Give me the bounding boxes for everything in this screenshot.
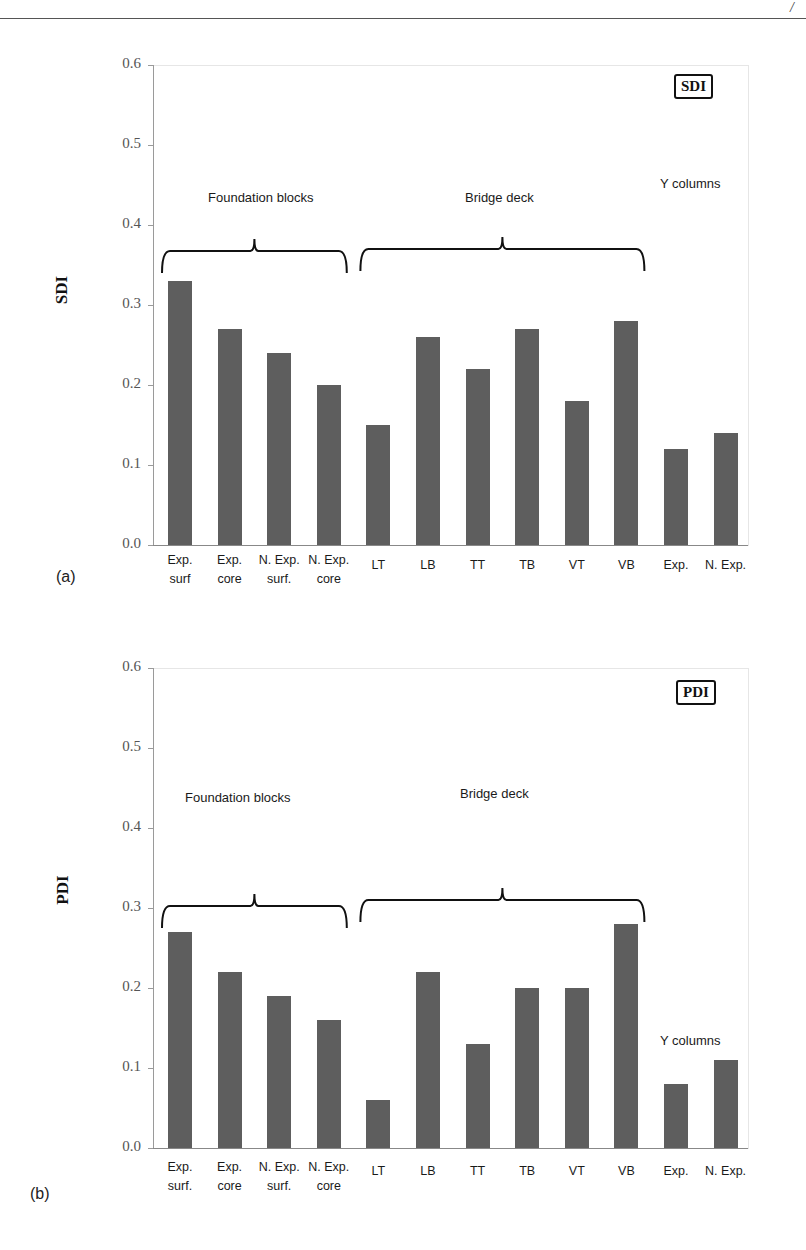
bar	[714, 433, 738, 545]
bar	[466, 369, 490, 545]
bar	[664, 1084, 688, 1148]
y-tick-label: 0.4	[101, 818, 141, 835]
group-label: Foundation blocks	[185, 790, 291, 805]
bar	[168, 932, 192, 1148]
group-label: Foundation blocks	[208, 190, 314, 205]
group-label: Bridge deck	[465, 190, 534, 205]
y-axis	[153, 65, 154, 545]
x-tick-label-line: N. Exp.	[696, 1162, 756, 1181]
x-tick-label: N. Exp.	[696, 556, 756, 575]
y-tick	[148, 385, 153, 386]
y-tick	[148, 545, 153, 546]
bar	[168, 281, 192, 545]
bar	[317, 385, 341, 545]
y-tick	[148, 225, 153, 226]
page-top-rule	[0, 18, 806, 19]
x-tick-label: N. Exp.	[696, 1162, 756, 1181]
y-tick-label: 0.3	[101, 295, 141, 312]
x-tick-label-line: N. Exp.	[696, 556, 756, 575]
y-tick	[148, 1148, 153, 1149]
bar	[416, 337, 440, 545]
y-tick	[148, 145, 153, 146]
y-tick	[148, 465, 153, 466]
bar	[218, 972, 242, 1148]
y-tick	[148, 748, 153, 749]
bar	[267, 996, 291, 1148]
y-tick	[148, 988, 153, 989]
legend-box: SDI	[674, 74, 713, 99]
bar	[416, 972, 440, 1148]
y-tick-label: 0.1	[101, 1058, 141, 1075]
bar	[366, 1100, 390, 1148]
x-axis	[153, 545, 748, 546]
bar	[614, 321, 638, 545]
y-tick	[148, 65, 153, 66]
group-label: Bridge deck	[460, 786, 529, 801]
y-tick-label: 0.5	[101, 738, 141, 755]
y-tick-label: 0.2	[101, 375, 141, 392]
panel-tag: (a)	[56, 568, 76, 586]
bar	[565, 401, 589, 545]
group-brace-icon	[0, 880, 806, 940]
bar	[664, 449, 688, 545]
x-axis	[153, 1148, 748, 1149]
bar	[218, 329, 242, 545]
bar	[366, 425, 390, 545]
bar	[515, 329, 539, 545]
y-tick-label: 0.5	[101, 135, 141, 152]
y-tick	[148, 668, 153, 669]
legend-box: PDI	[676, 680, 716, 705]
y-tick-label: 0.6	[101, 658, 141, 675]
y-tick	[148, 828, 153, 829]
bar	[714, 1060, 738, 1148]
bar	[267, 353, 291, 545]
y-tick-label: 0.0	[101, 535, 141, 552]
group-label: Y columns	[660, 1033, 720, 1048]
y-tick-label: 0.1	[101, 455, 141, 472]
bar	[515, 988, 539, 1148]
y-tick-label: 0.0	[101, 1138, 141, 1155]
bar	[317, 1020, 341, 1148]
bar	[614, 924, 638, 1148]
page-mark: /	[790, 0, 794, 16]
group-brace-icon	[0, 229, 806, 289]
y-tick	[148, 1068, 153, 1069]
panel-tag: (b)	[30, 1185, 50, 1203]
y-tick-label: 0.6	[101, 55, 141, 72]
bar	[466, 1044, 490, 1148]
group-label: Y columns	[660, 176, 720, 191]
y-tick	[148, 305, 153, 306]
bar	[565, 988, 589, 1148]
y-tick-label: 0.2	[101, 978, 141, 995]
plot-frame	[153, 65, 749, 546]
